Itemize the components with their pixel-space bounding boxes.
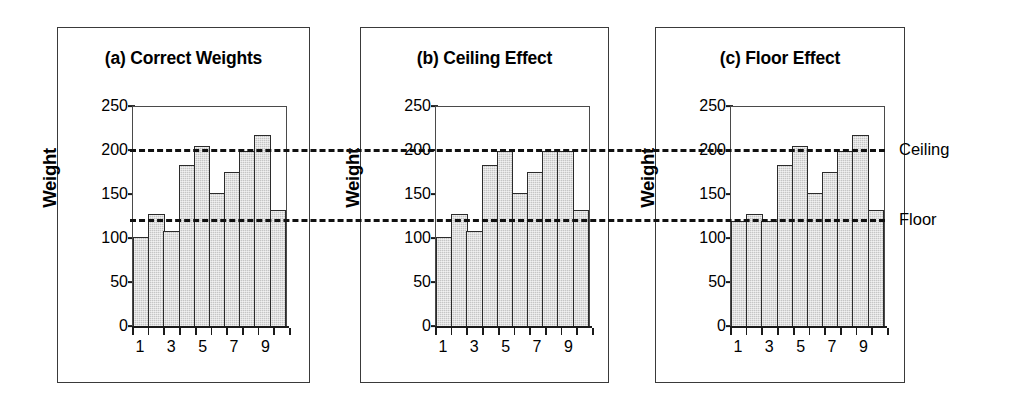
x-tick-mark-8 [561, 328, 563, 335]
y-tick-label-100: 100 [699, 229, 726, 247]
panel-b: (b) Ceiling Effect Weight 05010015020025… [360, 27, 609, 383]
bar-6 [512, 193, 528, 326]
y-tick-label-0: 0 [717, 317, 726, 335]
x-tick-mark-4 [195, 328, 197, 335]
panel-a-title: (a) Correct Weights [58, 48, 309, 69]
x-tick-mark-7 [545, 328, 547, 335]
y-tick-label-50: 50 [708, 273, 726, 291]
bar-9 [557, 151, 573, 326]
panel-c-y-axis-title: Weight [637, 148, 659, 208]
panel-c-plot-area [730, 106, 885, 326]
x-tick-label-3: 3 [470, 338, 479, 356]
x-tick-mark-7 [242, 328, 244, 335]
x-tick-mark-2 [163, 328, 165, 335]
x-tick-mark-8 [856, 328, 858, 335]
y-tick-label-200: 200 [101, 141, 128, 159]
bar-4 [777, 165, 793, 326]
bar-4 [179, 165, 195, 326]
bar-3 [761, 221, 777, 326]
panel-b-y-axis: 050100150200250 [413, 98, 437, 334]
bar-8 [239, 151, 255, 326]
bar-9 [254, 135, 270, 326]
x-tick-label-5: 5 [796, 338, 805, 356]
y-tick-label-250: 250 [699, 97, 726, 115]
x-tick-mark-5 [809, 328, 811, 335]
x-tick-mark-10 [592, 328, 594, 335]
x-tick-mark-9 [273, 328, 275, 335]
bar-7 [527, 172, 543, 326]
bar-5 [194, 146, 210, 326]
bar-1 [731, 221, 747, 326]
x-tick-mark-5 [211, 328, 213, 335]
x-tick-label-7: 7 [533, 338, 542, 356]
panel-b-plot-area [435, 106, 590, 326]
bar-1 [133, 237, 149, 326]
panel-c-y-axis: 050100150200250 [708, 98, 732, 334]
x-tick-mark-2 [761, 328, 763, 335]
y-tick-label-0: 0 [422, 317, 431, 335]
y-tick-label-50: 50 [413, 273, 431, 291]
x-tick-mark-3 [482, 328, 484, 335]
panel-b-x-axis: 13579 [435, 328, 592, 362]
panel-c: (c) Floor Effect Weight 050100150200250 … [655, 27, 905, 383]
x-tick-mark-1 [451, 328, 453, 335]
panel-c-x-axis: 13579 [730, 328, 887, 362]
x-tick-mark-10 [887, 328, 889, 335]
x-tick-mark-9 [576, 328, 578, 335]
x-tick-mark-0 [435, 328, 437, 335]
x-tick-mark-0 [132, 328, 134, 335]
bar-6 [209, 193, 225, 326]
x-tick-label-1: 1 [135, 338, 144, 356]
panel-a: (a) Correct Weights Weight 0501001502002… [57, 27, 310, 383]
x-tick-mark-6 [226, 328, 228, 335]
bar-7 [822, 172, 838, 326]
panel-a-y-axis: 050100150200250 [110, 98, 134, 334]
x-tick-mark-4 [498, 328, 500, 335]
x-tick-label-9: 9 [564, 338, 573, 356]
x-tick-mark-10 [289, 328, 291, 335]
x-tick-mark-9 [871, 328, 873, 335]
panel-a-y-axis-title: Weight [39, 148, 61, 208]
panel-b-bars [436, 107, 589, 326]
reference-line-ceiling [130, 149, 885, 152]
panel-c-title: (c) Floor Effect [656, 48, 904, 69]
x-tick-mark-4 [793, 328, 795, 335]
x-tick-mark-6 [529, 328, 531, 335]
y-tick-label-250: 250 [404, 97, 431, 115]
x-tick-label-9: 9 [859, 338, 868, 356]
bar-3 [163, 231, 179, 326]
bar-9 [852, 135, 868, 326]
x-tick-label-5: 5 [501, 338, 510, 356]
bar-2 [746, 214, 762, 326]
bar-10 [868, 210, 884, 326]
x-tick-mark-3 [777, 328, 779, 335]
x-tick-mark-7 [840, 328, 842, 335]
bar-2 [148, 214, 164, 326]
reference-label-floor: Floor [899, 210, 937, 229]
x-tick-mark-2 [466, 328, 468, 335]
y-tick-label-150: 150 [404, 185, 431, 203]
x-tick-label-5: 5 [198, 338, 207, 356]
panel-c-bars [731, 107, 884, 326]
bar-4 [482, 165, 498, 326]
panel-a-bars [133, 107, 286, 326]
x-tick-mark-1 [746, 328, 748, 335]
bar-10 [573, 210, 589, 326]
bar-5 [497, 151, 513, 326]
y-tick-label-150: 150 [699, 185, 726, 203]
x-tick-label-9: 9 [261, 338, 270, 356]
panel-a-plot-area [132, 106, 287, 326]
bar-3 [466, 231, 482, 326]
x-tick-mark-8 [258, 328, 260, 335]
x-tick-mark-6 [824, 328, 826, 335]
y-tick-label-0: 0 [119, 317, 128, 335]
bar-2 [451, 214, 467, 326]
bar-10 [270, 210, 286, 326]
x-tick-label-3: 3 [765, 338, 774, 356]
y-tick-label-50: 50 [110, 273, 128, 291]
bar-1 [436, 237, 452, 326]
bar-6 [807, 193, 823, 326]
x-tick-label-3: 3 [167, 338, 176, 356]
bar-8 [837, 151, 853, 326]
reference-line-floor [130, 219, 885, 222]
